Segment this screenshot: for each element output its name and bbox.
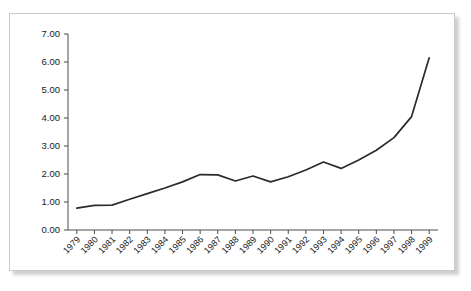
x-tick-label: 1989	[237, 234, 258, 255]
x-tick-label: 1988	[220, 234, 241, 255]
x-tick-label: 1982	[114, 234, 135, 255]
x-tick-label: 1979	[61, 234, 82, 255]
x-tick-label: 1990	[255, 234, 276, 255]
y-tick-label: 4.00	[42, 112, 61, 123]
x-tick-label: 1984	[149, 234, 170, 255]
x-tick-label: 1998	[396, 234, 417, 255]
y-tick-label: 6.00	[42, 56, 61, 67]
x-tick-label: 1992	[290, 234, 311, 255]
x-tick-label: 1995	[343, 234, 364, 255]
y-tick-label: 7.00	[42, 28, 61, 39]
x-tick-label: 1996	[361, 234, 382, 255]
x-tick-label: 1985	[167, 234, 188, 255]
y-tick-label: 0.00	[42, 224, 61, 235]
plot-area: 0.001.002.003.004.005.006.007.0019791980…	[10, 14, 456, 272]
x-tick-label: 1991	[272, 234, 293, 255]
x-tick-label: 1997	[378, 234, 399, 255]
data-series-line	[77, 58, 429, 208]
x-tick-label: 1999	[413, 234, 434, 255]
x-tick-label: 1987	[202, 234, 223, 255]
y-tick-label: 5.00	[42, 84, 61, 95]
line-chart: 0.001.002.003.004.005.006.007.0019791980…	[10, 14, 456, 272]
chart-frame: 0.001.002.003.004.005.006.007.0019791980…	[9, 13, 455, 271]
y-tick-label: 3.00	[42, 140, 61, 151]
y-tick-label: 1.00	[42, 196, 61, 207]
x-tick-label: 1994	[325, 234, 346, 255]
x-tick-label: 1986	[184, 234, 205, 255]
x-tick-label: 1980	[79, 234, 100, 255]
y-tick-label: 2.00	[42, 168, 61, 179]
x-tick-label: 1983	[131, 234, 152, 255]
x-tick-label: 1981	[96, 234, 117, 255]
x-tick-label: 1993	[308, 234, 329, 255]
figure-root: 0.001.002.003.004.005.006.007.0019791980…	[0, 0, 471, 291]
